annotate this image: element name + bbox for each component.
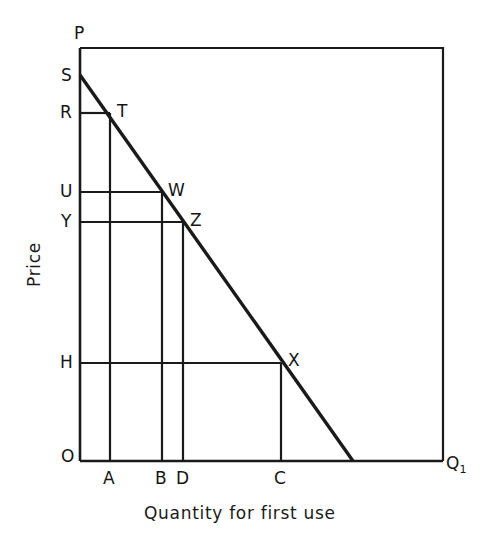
label-Q-subscript: 1: [459, 463, 466, 476]
label-S: S: [61, 67, 72, 84]
label-X: X: [288, 352, 300, 369]
plot-area: [0, 0, 484, 556]
label-Y: Y: [61, 213, 71, 230]
x-axis-title: Quantity for first use: [144, 503, 336, 523]
label-W: W: [168, 182, 185, 199]
label-O: O: [61, 448, 74, 465]
label-A: A: [103, 470, 115, 487]
label-D: D: [176, 470, 189, 487]
label-C: C: [274, 470, 286, 487]
label-P: P: [74, 25, 84, 42]
label-Z: Z: [190, 212, 202, 229]
label-U: U: [60, 183, 72, 200]
y-axis-title: Price: [24, 242, 44, 287]
economics-demand-diagram: P S R U Y H O T W Z X A B D C Q1 Price Q…: [0, 0, 484, 556]
label-Q-main: Q: [446, 453, 459, 473]
demand-curve: [80, 75, 353, 461]
label-Q1: Q1: [446, 455, 466, 475]
label-R: R: [60, 104, 72, 121]
label-B: B: [155, 470, 167, 487]
label-T: T: [117, 103, 127, 120]
frame-top-right-border: [80, 48, 443, 461]
label-H: H: [60, 354, 73, 371]
